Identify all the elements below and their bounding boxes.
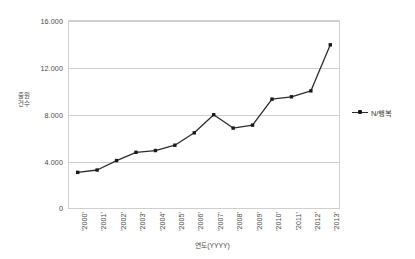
legend-item-label: N/행복 bbox=[371, 107, 392, 118]
plot-area bbox=[68, 20, 340, 209]
x-axis-title: 연도(YYYY) bbox=[0, 240, 415, 250]
gridline-8000 bbox=[69, 115, 339, 116]
gridline-12000 bbox=[69, 68, 339, 69]
gridline-0 bbox=[69, 208, 339, 209]
y-axis-tick-label-16000: 16.000 bbox=[3, 17, 63, 26]
y-axis-tick-label-8000: 8.000 bbox=[3, 111, 63, 120]
y-axis-title: 출원건수 bbox=[18, 92, 30, 107]
y-axis-tick-label-0: 0 bbox=[3, 204, 63, 213]
chart-legend: N/행복 bbox=[352, 107, 392, 118]
legend-marker-icon bbox=[352, 109, 368, 116]
line-chart: 출원건수 16.000 12.000 8.000 4.000 0 '2000''… bbox=[0, 0, 415, 259]
gridline-4000 bbox=[69, 162, 339, 163]
y-axis-tick-label-4000: 4.000 bbox=[3, 158, 63, 167]
gridline-16000 bbox=[69, 21, 339, 22]
y-axis-tick-label-12000: 12.000 bbox=[3, 64, 63, 73]
